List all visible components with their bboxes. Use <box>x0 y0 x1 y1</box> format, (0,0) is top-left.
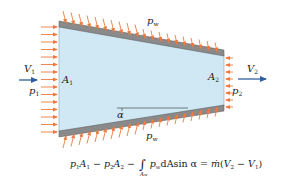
inlet-velocity-label: V1 <box>24 64 35 75</box>
integral-sign: ∫Aw <box>139 157 146 172</box>
inlet-area-label: A1 <box>62 75 73 86</box>
inlet-pressure-label: p1 <box>29 86 39 97</box>
outlet-pressure-label: p2 <box>232 86 242 97</box>
bottom-wall-pressure-label: pw <box>146 131 158 142</box>
outlet-pressure-arrows <box>226 58 233 107</box>
wall-angle-label: α <box>117 110 124 120</box>
outlet-velocity-label: V2 <box>247 64 258 75</box>
inlet-pressure-arrows <box>41 27 57 132</box>
outlet-area-label: A2 <box>208 72 219 83</box>
momentum-equation: p1A1 − p2A2 − ∫Aw pwdAsin α = ṁ(V2 − V1) <box>70 157 262 172</box>
top-wall-pressure-label: pw <box>147 16 159 27</box>
